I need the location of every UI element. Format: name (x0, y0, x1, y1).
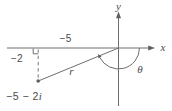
y-axis-arrowhead (116, 12, 121, 19)
vertical-distance-label: −2 (11, 53, 23, 64)
radius-label: r (69, 65, 74, 77)
point-label-imaginary-unit: i (39, 90, 43, 102)
point-label-main: −5 − 2 (6, 90, 39, 102)
labels: −5 −2 r θ −5 − 2i (6, 33, 143, 102)
point-construction (33, 48, 139, 83)
horizontal-distance-label: −5 (60, 33, 72, 44)
right-angle-marker (33, 49, 38, 54)
radius-line (40, 48, 119, 81)
angle-label: θ (137, 63, 143, 75)
y-axis-label: y (115, 0, 121, 12)
complex-plane-figure: x y −5 −2 r θ −5 − 2i (0, 0, 172, 111)
x-axis-label: x (160, 41, 166, 53)
diagram-svg: x y −5 −2 r θ −5 − 2i (0, 0, 172, 111)
point-marker (36, 79, 40, 83)
point-label: −5 − 2i (6, 90, 42, 102)
angle-arc (100, 48, 140, 69)
x-axis-arrowhead (148, 46, 155, 51)
